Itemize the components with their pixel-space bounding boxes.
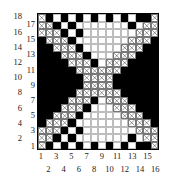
x-axis-tick-label: 14 <box>133 165 147 174</box>
heatmap-cell <box>143 119 151 127</box>
y-axis-tick-label: 9 <box>21 81 35 90</box>
heatmap-cell <box>76 127 84 135</box>
heatmap-cell <box>143 142 151 150</box>
heatmap-cell <box>68 127 76 135</box>
heatmap-cell <box>128 37 136 45</box>
heatmap-cell <box>83 82 91 90</box>
heatmap-cell <box>91 37 99 45</box>
heatmap-cell <box>143 14 151 22</box>
heatmap-cell <box>143 22 151 30</box>
heatmap-cell <box>46 104 54 112</box>
y-axis-tick-label: 11 <box>21 66 35 75</box>
heatmap-cell <box>76 112 84 120</box>
heatmap-cell <box>83 29 91 37</box>
heatmap-cell <box>113 97 121 105</box>
heatmap-cell <box>53 97 61 105</box>
heatmap-cell <box>83 134 91 142</box>
heatmap-cell <box>61 22 69 30</box>
heatmap-cell <box>83 119 91 127</box>
heatmap-cell <box>68 29 76 37</box>
heatmap-cell <box>53 37 61 45</box>
heatmap-cell <box>128 67 136 75</box>
heatmap-cell <box>68 44 76 52</box>
heatmap-cell <box>46 14 54 22</box>
heatmap-cell <box>128 119 136 127</box>
heatmap-cell <box>98 52 106 60</box>
heatmap-cell <box>136 142 144 150</box>
x-axis-tick-label: 1 <box>34 152 48 161</box>
heatmap-cell <box>76 29 84 37</box>
heatmap-cell <box>151 74 159 82</box>
x-axis-tick-label: 10 <box>102 165 116 174</box>
heatmap-cell <box>121 104 129 112</box>
y-axis-tick-label: 15 <box>21 35 35 44</box>
heatmap-cell <box>53 134 61 142</box>
heatmap-cell <box>113 59 121 67</box>
heatmap-cell <box>121 89 129 97</box>
heatmap-cell <box>53 52 61 60</box>
heatmap-cell <box>136 119 144 127</box>
y-axis-tick-label: 14 <box>2 43 22 52</box>
heatmap-cell <box>76 67 84 75</box>
heatmap-cell <box>128 134 136 142</box>
heatmap-cell <box>151 14 159 22</box>
heatmap-cell <box>61 29 69 37</box>
heatmap-cell <box>91 82 99 90</box>
heatmap-cell <box>68 52 76 60</box>
heatmap-cell <box>106 82 114 90</box>
heatmap-cell <box>91 112 99 120</box>
heatmap-cell <box>68 74 76 82</box>
heatmap-cell <box>38 29 46 37</box>
heatmap-cell <box>106 37 114 45</box>
heatmap-cell <box>46 127 54 135</box>
heatmap-cell <box>46 97 54 105</box>
heatmap-cell <box>53 74 61 82</box>
heatmap-cell <box>83 112 91 120</box>
heatmap-cell <box>106 104 114 112</box>
heatmap-cell <box>83 127 91 135</box>
heatmap-cell <box>38 104 46 112</box>
heatmap-cell <box>106 14 114 22</box>
heatmap-cell <box>91 59 99 67</box>
heatmap-cell <box>143 74 151 82</box>
heatmap-cell <box>128 127 136 135</box>
heatmap-cell <box>76 119 84 127</box>
heatmap-cell <box>121 67 129 75</box>
heatmap-cell <box>61 142 69 150</box>
heatmap-cell <box>106 29 114 37</box>
heatmap-cell <box>143 37 151 45</box>
heatmap-cell <box>143 44 151 52</box>
x-axis-tick-label: 4 <box>57 165 71 174</box>
heatmap-cell <box>113 67 121 75</box>
heatmap-cell <box>76 142 84 150</box>
y-axis-tick-label: 16 <box>2 28 22 37</box>
heatmap-cell <box>121 52 129 60</box>
heatmap-cell <box>68 82 76 90</box>
chart-root: 1816141210864217151311975311357911131524… <box>0 0 173 183</box>
heatmap-cell <box>106 52 114 60</box>
heatmap-cell <box>53 127 61 135</box>
heatmap-cell <box>98 44 106 52</box>
heatmap-cell <box>91 134 99 142</box>
heatmap-cell <box>53 22 61 30</box>
heatmap-cell <box>91 97 99 105</box>
heatmap-cell <box>98 37 106 45</box>
heatmap-cell <box>38 67 46 75</box>
heatmap-cell <box>46 37 54 45</box>
heatmap-cell <box>61 14 69 22</box>
heatmap-cell <box>106 59 114 67</box>
heatmap-cell <box>151 29 159 37</box>
heatmap-cell <box>38 97 46 105</box>
y-axis-tick-label: 3 <box>21 126 35 135</box>
heatmap-cell <box>53 44 61 52</box>
heatmap-cell <box>53 67 61 75</box>
y-axis-tick-label: 1 <box>21 142 35 151</box>
heatmap-cell <box>128 112 136 120</box>
heatmap-cell <box>38 74 46 82</box>
heatmap-cell <box>128 74 136 82</box>
heatmap-cell <box>98 119 106 127</box>
heatmap-cell <box>46 22 54 30</box>
heatmap-cell <box>151 44 159 52</box>
heatmap-cell <box>46 67 54 75</box>
heatmap-cell <box>113 82 121 90</box>
